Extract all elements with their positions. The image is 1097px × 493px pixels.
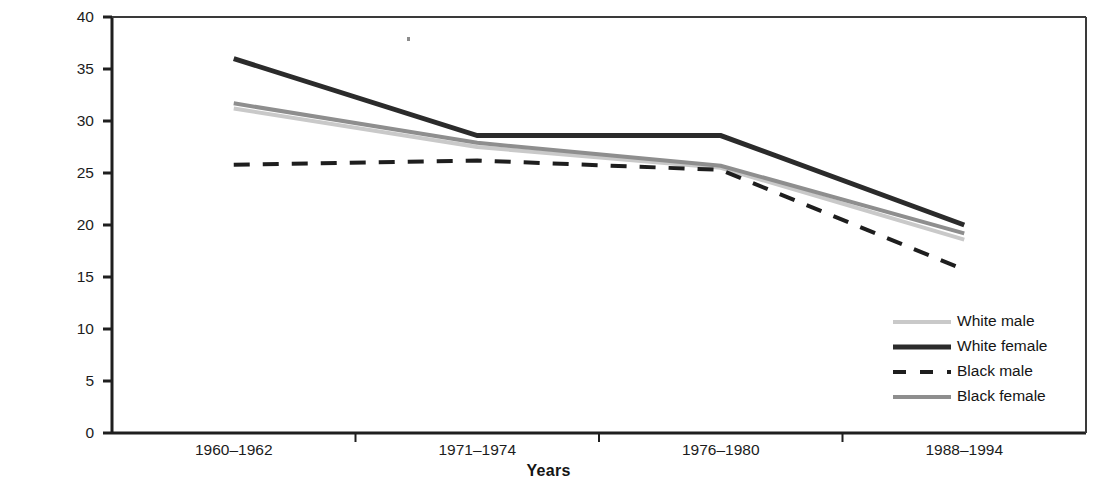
x-tick-label: 1988–1994 — [874, 441, 1054, 459]
series-line-black-female — [234, 103, 965, 233]
legend-label-black-female: Black female — [957, 388, 1046, 404]
y-tick-label: 30 — [52, 113, 94, 129]
y-tick-label: 15 — [52, 269, 94, 285]
legend-label-white-female: White female — [957, 338, 1047, 354]
y-tick-label: 0 — [52, 425, 94, 441]
y-tick-label: 25 — [52, 165, 94, 181]
plot-area — [0, 0, 1097, 493]
y-tick-label: 10 — [52, 321, 94, 337]
legend-label-black-male: Black male — [957, 363, 1033, 379]
y-tick-label: 5 — [52, 373, 94, 389]
series-line-white-female — [234, 59, 965, 225]
chart-figure: Percent with High Serum Cholesterol Year… — [0, 0, 1097, 493]
x-tick-label: 1971–1974 — [387, 441, 567, 459]
series-line-white-male — [234, 109, 965, 240]
y-tick-label: 40 — [52, 9, 94, 25]
x-tick-label: 1976–1980 — [631, 441, 811, 459]
legend-label-white-male: White male — [957, 313, 1035, 329]
scan-artifact-speck — [407, 37, 410, 41]
y-tick-label: 20 — [52, 217, 94, 233]
x-tick-label: 1960–1962 — [144, 441, 324, 459]
y-tick-label: 35 — [52, 61, 94, 77]
series-line-black-male — [234, 161, 965, 270]
